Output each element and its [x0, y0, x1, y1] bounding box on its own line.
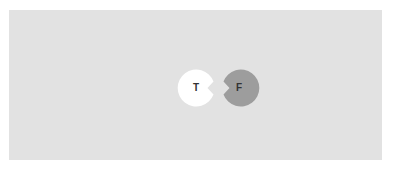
- toggle-shapes: [169, 60, 269, 116]
- true-false-toggle[interactable]: T F: [169, 60, 269, 116]
- true-option-label: T: [190, 83, 202, 93]
- canvas-panel: T F: [9, 10, 382, 160]
- false-option-label: F: [233, 83, 245, 93]
